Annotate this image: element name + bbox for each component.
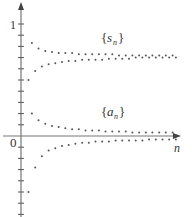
data-point	[34, 70, 36, 72]
data-point	[125, 54, 127, 56]
data-point	[105, 131, 107, 133]
data-point	[51, 51, 53, 53]
data-point	[111, 131, 113, 133]
data-point	[81, 59, 83, 61]
data-point	[85, 53, 87, 55]
x-axis-arrow-icon	[173, 133, 181, 139]
data-point	[41, 66, 43, 68]
data-point	[34, 166, 36, 168]
data-point	[172, 54, 174, 56]
series-subscript: n	[113, 38, 117, 47]
data-point	[172, 132, 174, 134]
data-point	[131, 54, 133, 56]
data-point	[38, 48, 40, 50]
origin-label: 0	[10, 135, 17, 150]
data-point	[111, 53, 113, 55]
data-point	[118, 54, 120, 56]
data-point	[158, 54, 160, 56]
data-point	[28, 191, 30, 193]
data-point	[148, 57, 150, 59]
series-subscript: n	[114, 112, 118, 121]
sequence-plot: 1 0 n { s n } { a n }	[0, 0, 192, 217]
data-point	[48, 150, 50, 152]
data-point	[44, 123, 46, 125]
data-point	[61, 61, 63, 63]
data-point	[105, 53, 107, 55]
data-point	[88, 59, 90, 61]
data-point	[115, 140, 117, 142]
data-point	[168, 57, 170, 59]
data-point	[135, 140, 137, 142]
data-point	[141, 140, 143, 142]
data-point	[121, 58, 123, 60]
data-point	[48, 63, 50, 65]
data-point	[98, 53, 100, 55]
data-point	[58, 52, 60, 54]
data-point	[28, 79, 30, 81]
data-point	[58, 126, 60, 128]
data-point	[121, 140, 123, 142]
x-axis-label: n	[174, 141, 180, 155]
data-point	[78, 53, 80, 55]
data-point	[41, 155, 43, 157]
data-point	[61, 145, 63, 147]
data-point	[101, 141, 103, 143]
data-point	[88, 142, 90, 144]
data-point	[138, 132, 140, 134]
data-point	[165, 54, 167, 56]
data-point	[138, 54, 140, 56]
brace-close: }	[119, 104, 125, 119]
data-point	[145, 54, 147, 56]
data-point	[81, 142, 83, 144]
data-point	[151, 54, 153, 56]
data-point	[115, 58, 117, 60]
data-point	[71, 128, 73, 130]
data-point	[78, 128, 80, 130]
data-point	[158, 132, 160, 134]
data-point	[51, 125, 53, 127]
series-label-s: { s n }	[101, 30, 124, 47]
data-point	[74, 60, 76, 62]
data-point	[175, 57, 177, 59]
data-point	[145, 132, 147, 134]
data-point	[141, 57, 143, 59]
data-point	[71, 52, 73, 54]
data-point	[64, 52, 66, 54]
series-symbol: s	[107, 30, 112, 45]
brace-close: }	[118, 30, 124, 45]
data-point	[31, 42, 33, 44]
data-point	[128, 58, 130, 60]
data-point	[165, 132, 167, 134]
data-point	[118, 131, 120, 133]
data-point	[148, 138, 150, 140]
data-point	[101, 59, 103, 61]
data-point	[162, 57, 164, 59]
data-point	[135, 57, 137, 59]
data-point	[162, 138, 164, 140]
data-point	[64, 127, 66, 129]
series-label-a: { a n }	[101, 104, 125, 121]
data-point	[155, 138, 157, 140]
data-point	[68, 144, 70, 146]
data-point	[168, 138, 170, 140]
data-point	[91, 53, 93, 55]
data-point	[31, 113, 33, 115]
data-point	[108, 58, 110, 60]
data-point	[151, 132, 153, 134]
data-point	[38, 119, 40, 121]
data-point	[131, 132, 133, 134]
data-point	[108, 141, 110, 143]
data-point	[95, 141, 97, 143]
data-point	[91, 129, 93, 131]
y-tick-label-one: 1	[10, 18, 16, 32]
data-point	[54, 62, 56, 64]
data-point	[155, 57, 157, 59]
data-point	[85, 129, 87, 131]
series-a-points	[28, 113, 177, 193]
data-point	[125, 131, 127, 133]
y-axis-arrow-icon	[18, 2, 24, 10]
data-point	[54, 147, 56, 149]
data-point	[44, 50, 46, 52]
data-point	[74, 143, 76, 145]
series-symbol: a	[107, 104, 114, 119]
